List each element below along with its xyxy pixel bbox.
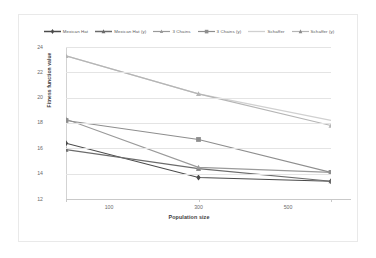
x-tick-500: 500: [268, 204, 308, 210]
x-tick-mark-mid: [199, 199, 200, 202]
x-axis-title: Population size: [19, 214, 359, 220]
data-point: [196, 174, 200, 180]
data-point: [196, 137, 201, 142]
plot-area: [66, 47, 331, 199]
legend-label: 3 Chains: [172, 29, 190, 34]
chart-container: Mexican Hat Mexican Hat (y) 3 Chains: [18, 14, 358, 242]
chart-legend: Mexican Hat Mexican Hat (y) 3 Chains: [19, 25, 359, 37]
series-line: [66, 120, 331, 172]
gridline-18: [66, 123, 331, 124]
y-tick-12: 12: [3, 196, 43, 202]
legend-item-schaffer-y[interactable]: Schaffer (y): [292, 28, 335, 35]
y-tick-18: 18: [3, 119, 43, 125]
gridline-22: [66, 72, 331, 73]
y-tick-14: 14: [3, 170, 43, 176]
series-line: [66, 119, 331, 172]
series-line: [66, 56, 331, 121]
legend-label: Schaffer: [267, 29, 284, 34]
legend-label: 3 Chains (y): [217, 29, 242, 34]
legend-item-schaffer[interactable]: Schaffer: [248, 28, 284, 35]
legend-marker-schaffer: [248, 28, 265, 35]
y-tick-20: 20: [3, 94, 43, 100]
legend-label: Schaffer (y): [311, 29, 335, 34]
legend-marker-schaffer-y: [292, 28, 309, 35]
legend-marker-3-chains: [153, 28, 170, 35]
gridline-24: [66, 47, 331, 48]
legend-marker-mexican-hat-y: [95, 28, 112, 35]
y-tick-24: 24: [3, 44, 43, 50]
legend-item-3-chains-y[interactable]: 3 Chains (y): [198, 28, 242, 35]
x-tick-100: 100: [89, 204, 129, 210]
data-point: [66, 53, 69, 58]
legend-item-mexican-hat-y[interactable]: Mexican Hat (y): [95, 28, 146, 35]
x-tick-mark-left: [66, 199, 67, 202]
gridline-16: [66, 148, 331, 149]
gridline-20: [66, 98, 331, 99]
x-tick-300: 300: [179, 204, 219, 210]
data-point: [66, 140, 68, 146]
legend-label: Mexican Hat: [63, 29, 89, 34]
x-axis-line: [66, 199, 351, 200]
legend-item-3-chains[interactable]: 3 Chains: [153, 28, 190, 35]
y-tick-22: 22: [3, 69, 43, 75]
series-line: [66, 56, 331, 126]
x-tick-mark-right: [331, 199, 332, 202]
gridline-14: [66, 174, 331, 175]
y-tick-16: 16: [3, 145, 43, 151]
legend-label: Mexican Hat (y): [114, 29, 146, 34]
y-axis-title: Fitness function value: [46, 32, 52, 128]
legend-marker-3-chains-y: [198, 28, 215, 35]
